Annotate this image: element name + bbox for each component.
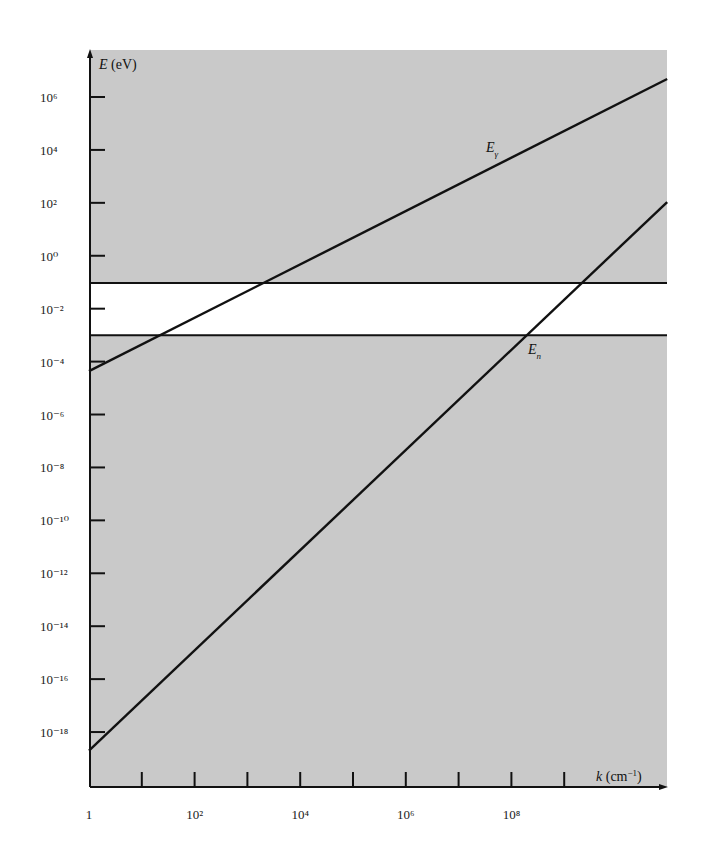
y-tick-label: 10⁻¹⁰ <box>40 513 69 528</box>
y-tick-label: 10⁴ <box>40 143 58 158</box>
shaded-region <box>90 50 667 787</box>
y-tick-label: 10⁻⁶ <box>40 408 64 423</box>
y-tick-label: 10⁶ <box>40 90 58 105</box>
x-tick-label: 10⁶ <box>397 807 415 822</box>
y-tick-label: 10⁻² <box>40 302 64 317</box>
y-tick-label: 10⁻¹² <box>40 566 68 581</box>
y-tick-label: 10⁻⁸ <box>40 460 65 475</box>
plot-background <box>90 50 667 787</box>
y-tick-label: 10⁻¹⁴ <box>40 619 69 634</box>
y-tick-label: 10⁻¹⁸ <box>40 725 69 740</box>
x-tick-label: 10⁴ <box>291 807 309 822</box>
y-axis-title: E (eV) <box>98 57 137 73</box>
y-tick-label: 10² <box>40 196 57 211</box>
y-tick-label: 10⁻¹⁶ <box>40 672 68 687</box>
x-tick-label: 10⁸ <box>503 807 521 822</box>
x-tick-label: 1 <box>86 807 93 822</box>
chart: 10⁶10⁴10²10⁰10⁻²10⁻⁴10⁻⁶10⁻⁸10⁻¹⁰10⁻¹²10… <box>0 0 702 860</box>
x-tick-label: 10² <box>186 807 203 822</box>
y-tick-label: 10⁻⁴ <box>40 355 65 370</box>
y-tick-label: 10⁰ <box>40 249 58 264</box>
